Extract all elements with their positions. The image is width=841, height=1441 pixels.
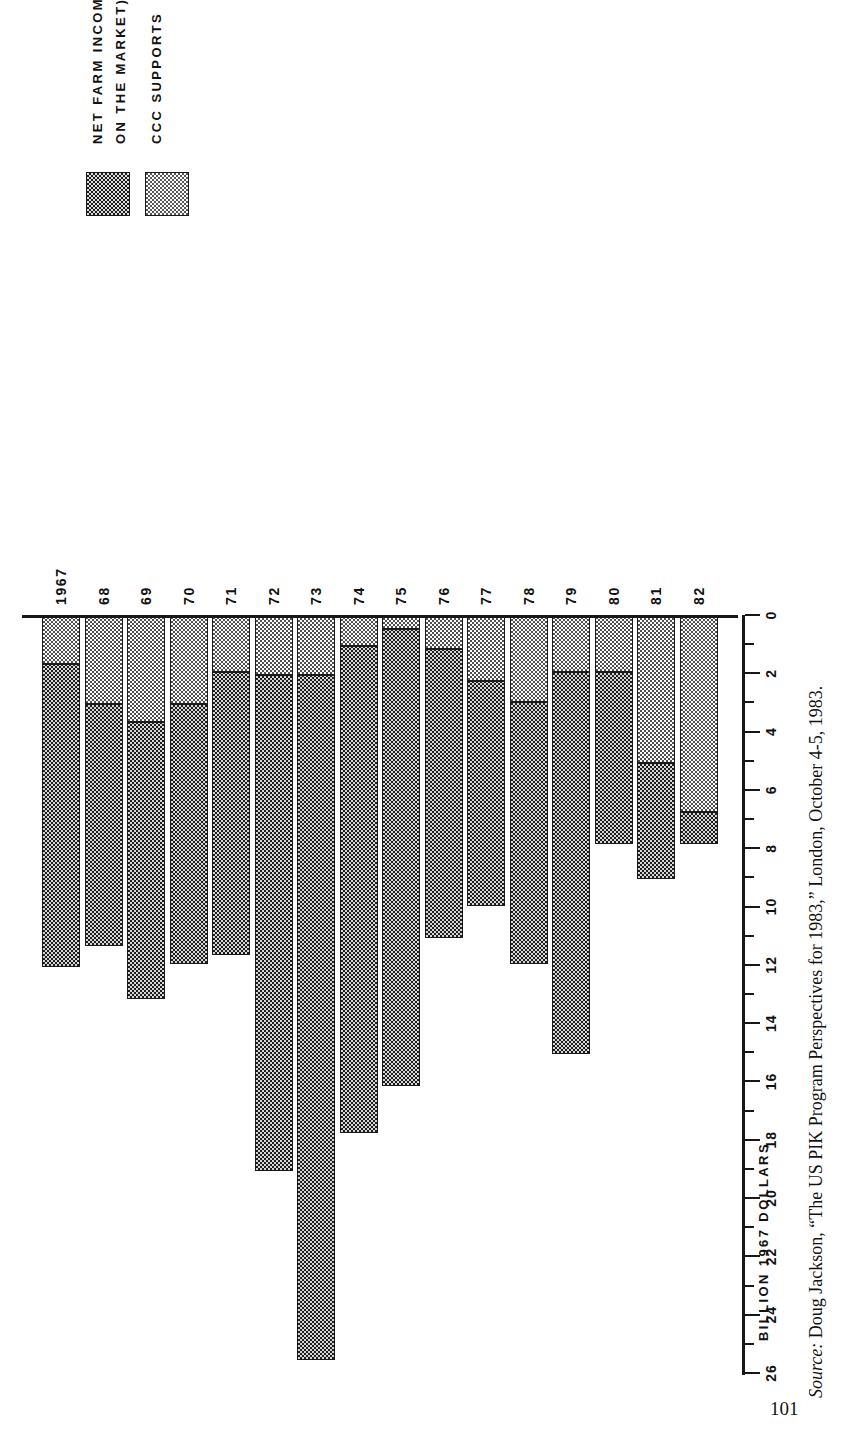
axis-tick-minor bbox=[745, 818, 754, 820]
axis-tick-label: 26 bbox=[763, 1364, 779, 1382]
bar-segment-net-farm-income bbox=[552, 672, 590, 1054]
bar-segment-net-farm-income bbox=[595, 672, 633, 844]
category-label: 79 bbox=[563, 586, 579, 605]
bar-segment-ccc-supports bbox=[382, 617, 420, 629]
bar-segment-ccc-supports bbox=[595, 617, 633, 672]
category-label: 68 bbox=[96, 586, 112, 605]
category-label: 75 bbox=[393, 586, 409, 605]
axis-tick-minor bbox=[745, 1110, 754, 1112]
axis-tick-label: 14 bbox=[763, 1014, 779, 1032]
category-label: 81 bbox=[648, 586, 664, 605]
bar-segment-net-farm-income bbox=[382, 629, 420, 1087]
bar-segment-ccc-supports bbox=[637, 617, 675, 763]
axis-tick-minor bbox=[745, 935, 754, 937]
bar-segment-ccc-supports bbox=[255, 617, 293, 675]
axis-tick-major bbox=[745, 1139, 760, 1141]
bar-segment-net-farm-income bbox=[340, 646, 378, 1133]
axis-tick-major bbox=[745, 964, 760, 966]
legend-item-label: NET FARM INCOME (FROM SALES ON THE MARKE… bbox=[86, 0, 132, 144]
axis-tick-major bbox=[745, 847, 760, 849]
value-axis: 02468101214161820222426 bbox=[742, 615, 743, 1375]
legend-label-line-2: ON THE MARKET) bbox=[113, 0, 128, 144]
bar-segment-ccc-supports bbox=[425, 617, 463, 649]
axis-tick-major bbox=[745, 614, 760, 616]
bar-segment-net-farm-income bbox=[425, 649, 463, 938]
axis-tick-minor bbox=[745, 643, 754, 645]
category-label: 80 bbox=[606, 586, 622, 605]
axis-tick-label: 24 bbox=[763, 1306, 779, 1324]
axis-tick-major bbox=[745, 1022, 760, 1024]
bar-segment-net-farm-income bbox=[297, 675, 335, 1360]
axis-tick-major bbox=[745, 1197, 760, 1199]
bar-segment-net-farm-income bbox=[170, 704, 208, 963]
bar-segment-ccc-supports bbox=[552, 617, 590, 672]
bar-segment-net-farm-income bbox=[212, 672, 250, 955]
category-label: 69 bbox=[138, 586, 154, 605]
plot-area: 1967686970717273747576777879808182 bbox=[40, 617, 720, 1375]
category-label: 78 bbox=[521, 586, 537, 605]
printed-page: NET FARM INCOME (FROM SALES ON THE MARKE… bbox=[0, 0, 841, 1441]
axis-tick-minor bbox=[745, 1343, 754, 1345]
chart-area: NET FARM INCOME (FROM SALES ON THE MARKE… bbox=[0, 0, 841, 1441]
bar-segment-net-farm-income bbox=[637, 763, 675, 880]
bar-segment-net-farm-income bbox=[85, 704, 123, 946]
bar-segment-ccc-supports bbox=[127, 617, 165, 722]
category-label: 70 bbox=[181, 586, 197, 605]
bar-segment-net-farm-income bbox=[255, 675, 293, 1171]
dark-dotted-swatch-icon bbox=[86, 172, 130, 216]
axis-tick-minor bbox=[745, 701, 754, 703]
axis-tick-label: 18 bbox=[763, 1131, 779, 1149]
legend-item-ccc-supports: CCC SUPPORTS bbox=[145, 0, 189, 216]
bar-segment-ccc-supports bbox=[170, 617, 208, 704]
axis-tick-major bbox=[745, 731, 760, 733]
axis-tick-minor bbox=[745, 993, 754, 995]
axis-tick-minor bbox=[745, 1051, 754, 1053]
axis-tick-label: 8 bbox=[763, 844, 779, 853]
axis-tick-label: 4 bbox=[763, 727, 779, 736]
axis-tick-major bbox=[745, 906, 760, 908]
bar-segment-net-farm-income bbox=[680, 812, 718, 844]
category-label: 77 bbox=[478, 586, 494, 605]
category-label: 76 bbox=[436, 586, 452, 605]
axis-tick-minor bbox=[745, 1168, 754, 1170]
bar-segment-ccc-supports bbox=[467, 617, 505, 681]
axis-tick-label: 12 bbox=[763, 956, 779, 974]
category-label: 71 bbox=[223, 586, 239, 605]
source-citation: Doug Jackson, “The US PIK Program Perspe… bbox=[806, 686, 826, 1343]
bar-segment-ccc-supports bbox=[212, 617, 250, 672]
axis-tick-label: 0 bbox=[763, 611, 779, 620]
page-number: 101 bbox=[770, 1398, 799, 1420]
legend-item-net-farm-income: NET FARM INCOME (FROM SALES ON THE MARKE… bbox=[86, 0, 132, 216]
axis-tick-major bbox=[745, 1255, 760, 1257]
value-axis-line bbox=[742, 615, 745, 1375]
bar-segment-net-farm-income bbox=[467, 681, 505, 905]
axis-tick-major bbox=[745, 1080, 760, 1082]
light-dotted-swatch-icon bbox=[145, 172, 189, 216]
axis-tick-minor bbox=[745, 1285, 754, 1287]
bar-segment-ccc-supports bbox=[85, 617, 123, 704]
legend-label-line-1: NET FARM INCOME (FROM SALES bbox=[90, 0, 105, 144]
axis-tick-label: 20 bbox=[763, 1189, 779, 1207]
axis-tick-minor bbox=[745, 1226, 754, 1228]
category-label: 74 bbox=[351, 586, 367, 605]
bar-segment-ccc-supports bbox=[340, 617, 378, 646]
legend-label-line-1: CCC SUPPORTS bbox=[149, 12, 164, 144]
source-label: Source: bbox=[806, 1343, 826, 1398]
source-note: Source: Doug Jackson, “The US PIK Progra… bbox=[806, 18, 827, 1398]
axis-tick-label: 2 bbox=[763, 669, 779, 678]
bar-segment-net-farm-income bbox=[127, 722, 165, 999]
category-label: 72 bbox=[266, 586, 282, 605]
bar-segment-net-farm-income bbox=[510, 702, 548, 964]
axis-tick-label: 16 bbox=[763, 1073, 779, 1091]
axis-tick-label: 22 bbox=[763, 1248, 779, 1266]
category-label: 82 bbox=[691, 586, 707, 605]
legend-item-label: CCC SUPPORTS bbox=[145, 12, 168, 144]
rotated-figure: NET FARM INCOME (FROM SALES ON THE MARKE… bbox=[0, 0, 841, 1441]
bar-segment-ccc-supports bbox=[297, 617, 335, 675]
axis-tick-major bbox=[745, 1314, 760, 1316]
axis-tick-label: 10 bbox=[763, 898, 779, 916]
bar-segment-ccc-supports bbox=[510, 617, 548, 702]
bar-segment-ccc-supports bbox=[680, 617, 718, 812]
axis-tick-label: 6 bbox=[763, 786, 779, 795]
axis-tick-major bbox=[745, 672, 760, 674]
